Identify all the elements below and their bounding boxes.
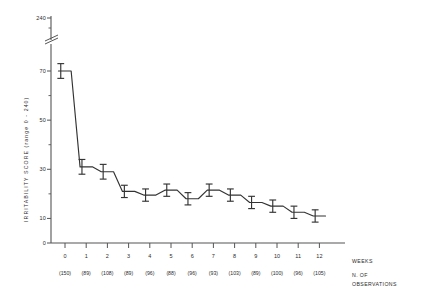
x-tick-label: 0 xyxy=(63,253,66,259)
observation-count: (103) xyxy=(229,270,241,276)
chart-figure: IRRITABILITY SCORE (range 0 - 240) 24070… xyxy=(0,0,429,299)
observation-count: (96) xyxy=(188,270,197,276)
observation-count: (105) xyxy=(313,270,325,276)
x-tick-label: 8 xyxy=(233,253,236,259)
y-tick-label: 240 xyxy=(33,15,46,21)
data-series-group xyxy=(57,64,325,222)
observation-count: (150) xyxy=(59,270,71,276)
observations-legend-line1: N. OF xyxy=(352,272,368,278)
observation-count: (88) xyxy=(166,270,175,276)
observation-count: (108) xyxy=(101,270,113,276)
y-axis xyxy=(45,16,58,243)
observation-count: (89) xyxy=(251,270,260,276)
observations-legend-line2: OBSERVATIONS xyxy=(352,281,397,287)
observation-count: (100) xyxy=(271,270,283,276)
observation-count: (93) xyxy=(209,270,218,276)
x-tick-label: 10 xyxy=(274,253,280,259)
x-tick-label: 4 xyxy=(148,253,151,259)
y-axis-label-text: IRRITABILITY SCORE (range 0 - 240) xyxy=(23,97,29,222)
y-tick-label: 10 xyxy=(33,215,46,221)
y-axis-label: IRRITABILITY SCORE (range 0 - 240) xyxy=(14,96,28,226)
observation-count: (89) xyxy=(124,270,133,276)
y-tick-label: 70 xyxy=(33,68,46,74)
y-tick-label: 50 xyxy=(33,117,46,123)
x-tick-label: 2 xyxy=(106,253,109,259)
x-tick-label: 5 xyxy=(169,253,172,259)
x-tick-label: 11 xyxy=(295,253,301,259)
observation-count: (89) xyxy=(82,270,91,276)
observation-count: (96) xyxy=(294,270,303,276)
mean-score-step-line xyxy=(58,71,325,216)
observation-count: (96) xyxy=(145,270,154,276)
y-axis-ticks xyxy=(47,18,51,243)
x-tick-label: 9 xyxy=(254,253,257,259)
x-axis-legend-weeks: WEEKS xyxy=(352,258,373,264)
x-tick-label: 12 xyxy=(316,253,322,259)
x-tick-label: 6 xyxy=(191,253,194,259)
x-axis-ticks xyxy=(65,243,319,248)
x-tick-label: 1 xyxy=(85,253,88,259)
x-tick-label: 3 xyxy=(127,253,130,259)
x-axis xyxy=(51,243,345,248)
x-tick-label: 7 xyxy=(212,253,215,259)
y-tick-label: 0 xyxy=(33,240,46,246)
error-bars xyxy=(57,64,318,222)
y-tick-label: 30 xyxy=(33,166,46,172)
